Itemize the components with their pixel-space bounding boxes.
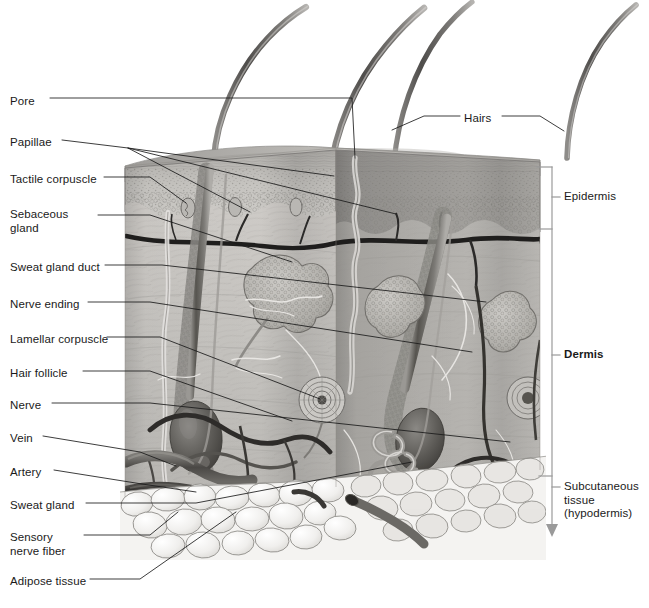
label-nerve-ending: Nerve ending xyxy=(10,298,80,312)
lamellar-corpuscle-b xyxy=(507,377,549,419)
label-tactile-corpuscle: Tactile corpuscle xyxy=(10,173,97,187)
sweat-gland-coil-a xyxy=(94,370,119,418)
label-dermis: Dermis xyxy=(564,348,604,362)
label-vein: Vein xyxy=(10,432,33,446)
leader-hairs-right xyxy=(502,116,564,131)
label-sweat-gland: Sweat gland xyxy=(10,499,74,513)
label-sweat-gland-duct: Sweat gland duct xyxy=(10,261,100,275)
label-hair-follicle: Hair follicle xyxy=(10,367,68,381)
figure-canvas: Pore Papillae Tactile corpuscle Sebaceou… xyxy=(0,0,649,608)
bracket-arrow-head xyxy=(546,524,558,537)
label-hairs: Hairs xyxy=(464,112,491,126)
label-nerve: Nerve xyxy=(10,399,41,413)
label-lamellar-corpuscle: Lamellar corpuscle xyxy=(10,333,108,347)
skin-block xyxy=(94,145,550,560)
label-sensory-nerve-fiber: Sensory nerve fiber xyxy=(10,531,65,558)
label-sebaceous-gland: Sebaceous gland xyxy=(10,208,68,235)
hair-shaft-4 xyxy=(567,5,636,158)
hair-shaft-1 xyxy=(214,7,306,160)
label-pore: Pore xyxy=(10,95,35,109)
label-epidermis: Epidermis xyxy=(564,190,616,204)
label-subcutaneous-tissue: Subcutaneous tissue (hypodermis) xyxy=(564,480,639,521)
hair-shaft-4-highlight xyxy=(569,5,638,158)
label-artery: Artery xyxy=(10,466,41,480)
skin-cross-section-illustration xyxy=(0,0,649,608)
plexus-right-descender xyxy=(540,239,546,340)
label-papillae: Papillae xyxy=(10,136,52,150)
hair-shaft-1-highlight xyxy=(216,6,308,159)
label-adipose-tissue: Adipose tissue xyxy=(10,575,86,589)
